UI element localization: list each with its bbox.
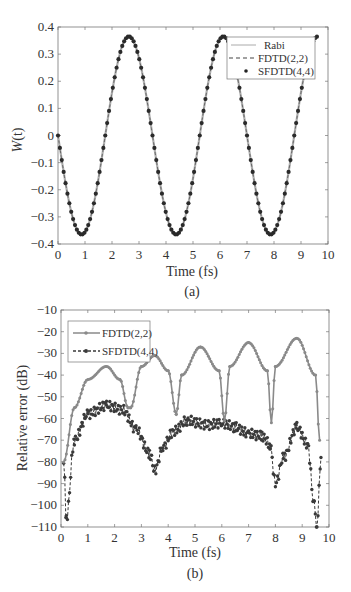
svg-text:0.1: 0.1 bbox=[38, 100, 54, 115]
svg-text:−110: −110 bbox=[31, 519, 57, 534]
svg-text:0.4: 0.4 bbox=[38, 19, 55, 34]
panel-a-chart: 012345678910−0.4−0.3−0.2−0.100.10.20.30.… bbox=[10, 19, 335, 300]
caption-a: (a) bbox=[184, 284, 200, 300]
y-axis-label-b: Relative error (dB) bbox=[15, 364, 31, 471]
svg-text:−50: −50 bbox=[37, 389, 57, 404]
svg-text:6: 6 bbox=[219, 530, 226, 545]
svg-text:5: 5 bbox=[190, 247, 197, 262]
svg-text:−0.1: −0.1 bbox=[30, 155, 54, 170]
legend-a: Rabi FDTD(2,2) SFDTD(4,4) bbox=[227, 37, 315, 79]
svg-text:−10: −10 bbox=[37, 302, 57, 317]
svg-text:10: 10 bbox=[323, 530, 336, 545]
svg-text:0: 0 bbox=[58, 530, 65, 545]
svg-text:8: 8 bbox=[272, 530, 279, 545]
svg-text:−80: −80 bbox=[37, 454, 57, 469]
svg-text:0.3: 0.3 bbox=[38, 46, 54, 61]
svg-text:10: 10 bbox=[322, 247, 335, 262]
x-axis-label-a: Time (fs) bbox=[166, 264, 218, 280]
svg-text:6: 6 bbox=[217, 247, 224, 262]
legend-a-rabi: Rabi bbox=[264, 39, 285, 51]
svg-text:7: 7 bbox=[245, 530, 252, 545]
svg-text:−40: −40 bbox=[37, 367, 57, 382]
y-axis-label-a: W(t) bbox=[10, 127, 26, 152]
svg-text:2: 2 bbox=[111, 530, 118, 545]
svg-text:7: 7 bbox=[244, 247, 251, 262]
legend-b: FDTD(2,2) SFDTD(4,4) bbox=[68, 321, 158, 362]
svg-text:−0.2: −0.2 bbox=[30, 182, 54, 197]
svg-text:−0.4: −0.4 bbox=[30, 236, 54, 251]
svg-text:3: 3 bbox=[138, 530, 145, 545]
svg-text:−60: −60 bbox=[37, 411, 57, 426]
legend-b-fdtd: FDTD(2,2) bbox=[102, 327, 152, 340]
legend-a-fdtd: FDTD(2,2) bbox=[258, 52, 308, 65]
svg-text:0.2: 0.2 bbox=[38, 73, 54, 88]
svg-text:1: 1 bbox=[85, 530, 92, 545]
svg-text:2: 2 bbox=[109, 247, 116, 262]
caption-b: (b) bbox=[187, 566, 204, 582]
svg-text:0: 0 bbox=[55, 247, 62, 262]
legend-b-sfdtd: SFDTD(4,4) bbox=[102, 345, 158, 358]
svg-text:0: 0 bbox=[48, 128, 55, 143]
figure: 012345678910−0.4−0.3−0.2−0.100.10.20.30.… bbox=[0, 0, 351, 592]
svg-text:4: 4 bbox=[165, 530, 172, 545]
panel-b-chart: 012345678910−110−100−90−80−70−60−50−40−3… bbox=[15, 302, 336, 582]
svg-text:−20: −20 bbox=[37, 324, 57, 339]
svg-text:3: 3 bbox=[136, 247, 143, 262]
svg-text:−90: −90 bbox=[37, 476, 57, 491]
svg-text:1: 1 bbox=[82, 247, 89, 262]
legend-a-sfdtd: SFDTD(4,4) bbox=[258, 65, 314, 78]
svg-text:5: 5 bbox=[192, 530, 199, 545]
svg-text:9: 9 bbox=[298, 247, 305, 262]
svg-text:8: 8 bbox=[271, 247, 278, 262]
sfdtd-error-curve bbox=[62, 400, 323, 529]
svg-text:−30: −30 bbox=[37, 345, 57, 360]
svg-text:9: 9 bbox=[299, 530, 306, 545]
svg-text:4: 4 bbox=[163, 247, 170, 262]
x-axis-label-b: Time (fs) bbox=[169, 545, 221, 561]
svg-text:−70: −70 bbox=[37, 432, 57, 447]
svg-text:−100: −100 bbox=[30, 497, 57, 512]
svg-text:−0.3: −0.3 bbox=[30, 209, 54, 224]
